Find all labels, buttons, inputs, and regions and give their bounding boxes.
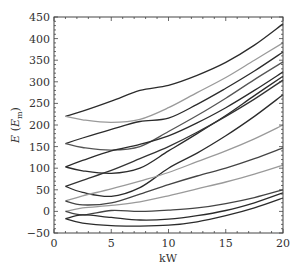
y-tick-label: 300 [29, 76, 50, 89]
y-tick-label: 50 [36, 184, 50, 197]
x-tick-label: 5 [108, 237, 115, 250]
x-tick-label: 20 [276, 237, 290, 250]
series-line-level-6 [66, 76, 284, 173]
y-tick-label: 150 [29, 141, 50, 154]
series-line-level-8 [66, 95, 284, 197]
x-tick-label: 15 [219, 237, 233, 250]
y-axis-label-e: E [9, 119, 22, 128]
x-tick-label: 10 [162, 237, 176, 250]
series-line-level-12 [66, 190, 284, 215]
x-axis-tick-labels: 05101520 [51, 237, 291, 250]
series-layer [66, 24, 284, 226]
x-tick-label: 0 [51, 237, 58, 250]
series-line-level-10 [66, 148, 284, 205]
y-tick-label: −50 [27, 227, 50, 240]
series-line-level-9 [66, 125, 284, 201]
line-chart: −50050100150200250300350400450 05101520 … [0, 0, 301, 273]
y-axis-label-close: ) [9, 107, 22, 111]
series-line-level-1 [66, 24, 284, 117]
y-axis-tick-labels: −50050100150200250300350400450 [27, 11, 50, 240]
y-tick-label: 0 [43, 205, 50, 218]
y-axis-label-main: E [9, 135, 22, 144]
y-axis-label-open: ( [9, 127, 22, 135]
y-tick-label: 350 [29, 54, 50, 67]
y-tick-label: 100 [29, 162, 50, 175]
y-axis-label: E (Em) [9, 107, 24, 144]
y-tick-label: 450 [29, 11, 50, 24]
y-tick-label: 250 [29, 97, 50, 110]
y-tick-label: 400 [29, 33, 50, 46]
x-axis-label: kW [159, 252, 178, 265]
y-tick-label: 200 [29, 119, 50, 132]
